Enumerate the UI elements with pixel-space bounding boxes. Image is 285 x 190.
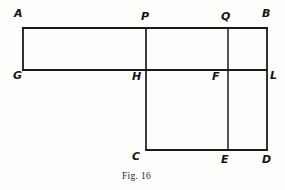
vertex-label-C: C bbox=[132, 151, 140, 162]
vertex-label-L: L bbox=[270, 70, 277, 81]
vertex-label-H: H bbox=[132, 71, 141, 82]
vertex-label-Q: Q bbox=[221, 11, 230, 22]
figure-caption: Fig. 16 bbox=[122, 171, 151, 181]
vertex-label-A: A bbox=[14, 8, 23, 19]
diagram-segments bbox=[23, 28, 267, 150]
vertex-label-B: B bbox=[262, 8, 270, 19]
geometry-diagram bbox=[0, 0, 285, 190]
vertex-label-F: F bbox=[212, 71, 220, 82]
vertex-label-P: P bbox=[141, 11, 149, 22]
vertex-label-G: G bbox=[13, 70, 22, 81]
figure-container: A P Q B G H F L C E D Fig. 16 bbox=[0, 0, 285, 190]
vertex-label-E: E bbox=[221, 154, 229, 165]
vertex-label-D: D bbox=[262, 154, 271, 165]
